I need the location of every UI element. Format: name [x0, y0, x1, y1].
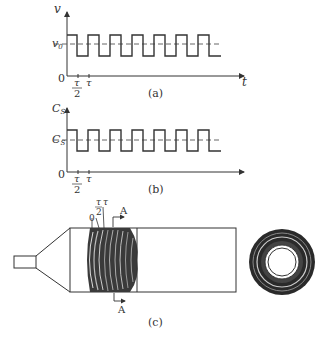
section-label-top: A	[119, 205, 128, 216]
panel-c-diagram: 0 τ 2 τ A A (c)	[14, 197, 315, 329]
origin-label: 0	[58, 72, 65, 85]
mark-zero: 0	[89, 213, 95, 223]
tick-half-numerator: τ	[74, 173, 80, 184]
figure-canvas: v v0 0 τ 2 τ t (a) CS CS 0 τ 2 τ (b)	[0, 0, 322, 341]
mark-tau: τ	[103, 197, 109, 207]
square-wave	[67, 35, 221, 56]
tick-half-numerator: τ	[74, 77, 80, 88]
section-label-bottom: A	[117, 304, 126, 315]
cone-top-edge	[36, 228, 70, 256]
tick-tau-label: τ	[86, 173, 92, 184]
cone-bottom-edge	[36, 268, 70, 292]
mark-tau-line	[103, 207, 104, 228]
level-label: v0	[52, 37, 63, 51]
caption-a: (a)	[148, 87, 163, 100]
caption-c: (c)	[148, 316, 163, 329]
section-arrow-bottom	[114, 293, 125, 301]
deposited-layer-bands	[87, 228, 138, 292]
section-arrow-top	[113, 217, 124, 227]
origin-label: 0	[58, 168, 65, 181]
level-label: CS	[52, 133, 65, 147]
tick-half-denominator: 2	[74, 184, 80, 195]
square-wave	[67, 130, 221, 151]
x-axis-label: t	[242, 75, 247, 89]
mark-half-numerator: τ	[96, 197, 102, 207]
panel-a-chart: v v0 0 τ 2 τ t (a)	[52, 2, 247, 100]
cross-section-view	[249, 229, 315, 295]
mark-half-line	[96, 218, 99, 228]
tick-tau-label: τ	[86, 77, 92, 88]
nozzle-tube	[14, 256, 36, 268]
y-axis-label: CS	[52, 102, 65, 116]
mark-half-denominator: 2	[96, 207, 102, 217]
panel-b-chart: CS CS 0 τ 2 τ (b)	[52, 102, 244, 196]
caption-b: (b)	[148, 183, 164, 196]
y-axis-label: v	[54, 2, 61, 16]
tick-half-denominator: 2	[74, 88, 80, 99]
